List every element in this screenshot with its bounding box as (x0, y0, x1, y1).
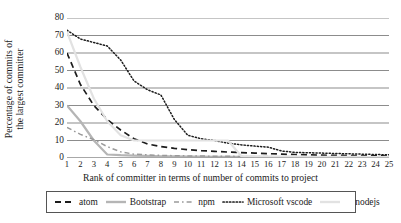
chart-canvas (67, 18, 389, 158)
faint-line-swatch (319, 197, 341, 207)
dotted-line-swatch (222, 197, 244, 207)
y-tick-label: 70 (55, 31, 64, 40)
y-tick-label: 80 (55, 13, 64, 22)
x-tick-label: 2 (78, 160, 82, 169)
x-tick-label: 1 (65, 160, 69, 169)
x-axis-title: Rank of committer in terms of number of … (0, 172, 401, 183)
solid-gray-line-swatch (105, 197, 127, 207)
x-tick-label: 4 (105, 160, 109, 169)
series-line-npm (67, 127, 389, 157)
y-axis-tick-labels: 01020304050607080 (38, 14, 64, 162)
plot-area (67, 18, 389, 158)
x-tick-label: 20 (318, 160, 327, 169)
y-tick-label: 50 (55, 66, 64, 75)
x-tick-label: 5 (119, 160, 123, 169)
legend-item-nodejs[interactable]: nodejs (319, 197, 386, 207)
x-tick-label: 21 (331, 160, 340, 169)
y-tick-label: 40 (55, 83, 64, 92)
legend-item-npm[interactable]: npm (173, 197, 222, 207)
x-tick-label: 11 (197, 160, 205, 169)
legend-item-bootstrap[interactable]: Bootstrap (105, 197, 173, 207)
x-tick-label: 8 (159, 160, 163, 169)
x-tick-label: 23 (358, 160, 367, 169)
legend-item-microsoft-vscode[interactable]: Microsoft vscode (222, 197, 319, 207)
x-tick-label: 25 (385, 160, 394, 169)
legend-label: Microsoft vscode (244, 197, 319, 207)
chart-figure: Percentage of commits of the largest com… (0, 0, 401, 223)
x-axis-tick-labels: 1234567891011121314151617181920212223242… (67, 160, 389, 172)
y-axis-title: Percentage of commits of the largest com… (0, 18, 30, 160)
x-tick-label: 9 (172, 160, 176, 169)
x-tick-label: 18 (291, 160, 300, 169)
x-tick-label: 13 (224, 160, 233, 169)
x-tick-label: 3 (92, 160, 96, 169)
legend-label: Bootstrap (127, 197, 173, 207)
x-tick-label: 15 (251, 160, 260, 169)
x-tick-label: 10 (183, 160, 192, 169)
x-tick-label: 16 (264, 160, 273, 169)
y-tick-label: 30 (55, 101, 64, 110)
chart-legend: atomBootstrapnpmMicrosoft vscodenodejs (46, 191, 356, 213)
x-tick-label: 12 (210, 160, 219, 169)
x-tick-label: 19 (304, 160, 313, 169)
dash-dot-line-swatch (173, 197, 195, 207)
series-line-microsoft-vscode (67, 30, 389, 155)
legend-item-atom[interactable]: atom (54, 197, 105, 207)
x-tick-label: 14 (237, 160, 246, 169)
series-line-nodejs (67, 32, 389, 157)
x-tick-label: 17 (277, 160, 286, 169)
dashed-line-swatch (54, 197, 76, 207)
x-tick-label: 6 (132, 160, 136, 169)
y-tick-label: 60 (55, 48, 64, 57)
legend-label: nodejs (341, 197, 386, 207)
legend-label: atom (76, 197, 105, 207)
legend-label: npm (195, 197, 222, 207)
x-tick-label: 24 (371, 160, 380, 169)
y-tick-label: 0 (59, 153, 64, 162)
y-axis-title-line2: the largest committer (15, 48, 26, 129)
x-tick-label: 7 (145, 160, 149, 169)
y-tick-label: 10 (55, 136, 64, 145)
y-tick-label: 20 (55, 118, 64, 127)
x-tick-label: 22 (344, 160, 353, 169)
